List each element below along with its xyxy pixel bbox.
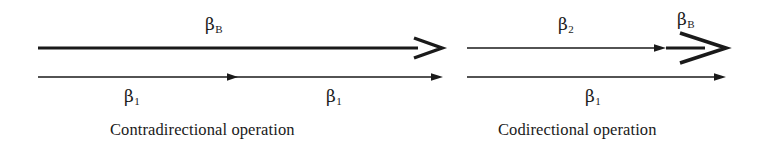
label-beta-b-contradirectional: βB [205,16,222,33]
label-beta-1-codirectional: β1 [585,88,600,105]
beta-glyph: β [326,86,336,106]
caption-codirectional-operation: Codirectional operation [498,122,657,139]
label-beta-2-codirectional: β2 [558,16,573,33]
beta-glyph: β [585,86,595,106]
beta-subscript: B [687,18,694,30]
figure-root: βB β1 β1 Contradirectional operation β2 … [0,0,761,153]
panel-codirectional: β2 βB β1 Codirectional operation [455,0,761,153]
contra-beta-b-arrowhead-icon [414,38,442,58]
contra-beta-1-end-arrowhead-icon [431,73,443,81]
panel-contradirectional: βB β1 β1 Contradirectional operation [0,0,450,153]
beta-subscript: 1 [336,95,342,107]
co-beta-1-arrowhead-icon [714,73,726,81]
label-beta-b-codirectional: βB [677,11,694,28]
contra-beta-1-mid-arrowhead-icon [227,73,238,81]
beta-glyph: β [677,9,687,29]
beta-glyph: β [205,14,215,34]
caption-contradirectional-operation: Contradirectional operation [110,122,295,139]
beta-subscript: B [215,23,222,35]
co-beta-2-arrowhead-icon [654,44,666,52]
label-beta-1-right-contradirectional: β1 [326,88,341,105]
label-beta-1-left-contradirectional: β1 [124,88,139,105]
beta-glyph: β [558,14,568,34]
beta-subscript: 2 [568,23,574,35]
beta-glyph: β [124,86,134,106]
beta-subscript: 1 [134,95,140,107]
beta-subscript: 1 [595,95,601,107]
